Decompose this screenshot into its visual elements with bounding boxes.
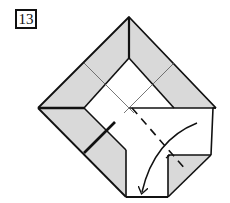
origami-diagram: [0, 0, 230, 203]
